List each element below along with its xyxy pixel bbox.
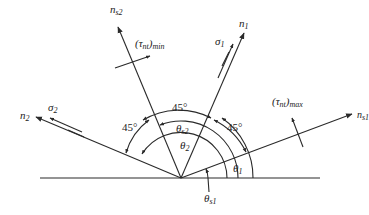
- label-45-right: 45°: [227, 122, 242, 133]
- label-n-s1: ns1: [357, 110, 369, 122]
- label-theta-s2: θs2: [176, 123, 189, 136]
- sigma1-tick: [222, 52, 229, 66]
- label-sigma-2: σ2: [48, 102, 57, 115]
- label-tau-min: (τnt)min: [135, 38, 165, 51]
- sigma2-tick: [68, 130, 84, 137]
- label-n-s2: ns2: [110, 4, 123, 17]
- label-45-left: 45°: [122, 122, 137, 133]
- arc-theta-s1: [206, 169, 209, 192]
- label-theta-2: θ2: [180, 140, 189, 153]
- label-theta-s1: θs1: [204, 193, 217, 206]
- label-sigma-1: σ1: [215, 36, 224, 49]
- label-n-2: n2: [20, 110, 30, 123]
- axis-n-1: [181, 33, 244, 178]
- label-45-top: 45°: [172, 102, 187, 113]
- tau-min-arrow: [115, 56, 150, 68]
- sigma1-arrow: [218, 44, 233, 78]
- label-tau-max: (τnt)max: [272, 96, 303, 109]
- label-n-1: n1: [239, 18, 249, 31]
- label-theta-1: θ1: [233, 163, 242, 176]
- axis-n-s1: [181, 114, 352, 178]
